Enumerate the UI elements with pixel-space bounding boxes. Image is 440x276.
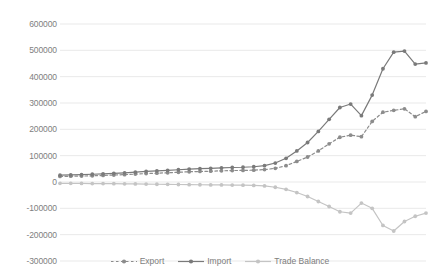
data-point [101, 172, 105, 176]
data-point [123, 171, 127, 175]
data-point [90, 172, 94, 176]
data-point [327, 117, 331, 121]
data-point [424, 211, 428, 215]
legend-item-import[interactable]: Import [178, 256, 231, 266]
y-axis-tick-labels: 6000005000004000003000002000001000000-10… [0, 0, 57, 276]
data-point [112, 171, 116, 175]
data-point [187, 183, 191, 187]
y-axis-tick-label: 300000 [5, 98, 57, 108]
data-point [338, 106, 342, 110]
data-point [413, 214, 417, 218]
data-point [241, 165, 245, 169]
data-point [392, 108, 396, 112]
legend-swatch-import [178, 257, 204, 266]
legend-swatch-export [111, 257, 137, 266]
data-point [392, 229, 396, 233]
data-point [273, 166, 277, 170]
y-axis-tick-label: 0 [5, 177, 57, 187]
data-point [273, 161, 277, 165]
data-point [133, 170, 137, 174]
data-point [306, 195, 310, 199]
data-point [177, 168, 181, 172]
data-point [187, 167, 191, 171]
y-axis-tick-label: 200000 [5, 124, 57, 134]
data-point [155, 169, 159, 173]
series-import [58, 49, 428, 177]
data-point [133, 182, 137, 186]
data-point [316, 130, 320, 134]
data-point [327, 205, 331, 209]
data-point [403, 220, 407, 224]
y-axis-tick-label: 600000 [5, 19, 57, 29]
series-trade-balance [58, 181, 428, 232]
data-point [58, 181, 62, 185]
data-point [284, 164, 288, 168]
data-point [230, 166, 234, 170]
y-axis-tick-label: 500000 [5, 45, 57, 55]
data-point [349, 133, 353, 137]
data-point [360, 135, 364, 139]
data-point [370, 206, 374, 210]
data-point [284, 156, 288, 160]
data-point [295, 149, 299, 153]
data-point [263, 164, 267, 168]
data-point [403, 49, 407, 53]
data-point [101, 182, 105, 186]
data-point [112, 182, 116, 186]
data-point [370, 93, 374, 97]
legend-item-export[interactable]: Export [111, 256, 165, 266]
data-point [166, 182, 170, 186]
data-point [144, 170, 148, 174]
line-chart: 6000005000004000003000002000001000000-10… [0, 0, 440, 276]
data-point [338, 135, 342, 139]
data-point [360, 201, 364, 205]
legend-label-export: Export [140, 256, 165, 266]
data-point [403, 107, 407, 111]
data-point [295, 191, 299, 195]
data-point [424, 110, 428, 114]
data-point [230, 183, 234, 187]
y-axis-tick-label: -200000 [5, 230, 57, 240]
data-point [413, 62, 417, 66]
legend-item-trade-balance[interactable]: Trade Balance [245, 256, 329, 266]
data-point [69, 181, 73, 185]
data-point [349, 211, 353, 215]
data-point [316, 200, 320, 204]
data-point [209, 183, 213, 187]
data-point [69, 173, 73, 177]
data-point [58, 173, 62, 177]
data-point [220, 183, 224, 187]
data-point [338, 210, 342, 214]
legend-swatch-trade-balance [245, 257, 271, 266]
data-point [306, 141, 310, 145]
data-point [381, 110, 385, 114]
data-point [241, 183, 245, 187]
data-point [413, 115, 417, 119]
y-axis-tick-label: -100000 [5, 203, 57, 213]
gridlines [60, 24, 426, 261]
data-point [424, 61, 428, 65]
data-point [263, 184, 267, 188]
data-point [295, 160, 299, 164]
data-point [349, 102, 353, 106]
chart-plot-area [0, 0, 440, 276]
data-point [381, 224, 385, 228]
series-line [60, 51, 426, 175]
data-point [155, 182, 159, 186]
data-point [360, 114, 364, 118]
data-point [198, 183, 202, 187]
data-point [252, 168, 256, 172]
data-point [273, 185, 277, 189]
data-point [252, 165, 256, 169]
data-point [252, 184, 256, 188]
data-point [306, 155, 310, 159]
data-point [327, 142, 331, 146]
data-point [209, 166, 213, 170]
data-point [123, 182, 127, 186]
data-point [166, 169, 170, 173]
chart-legend: Export Import Trade Balance [0, 252, 440, 270]
data-point [392, 50, 396, 54]
data-point [144, 182, 148, 186]
data-point [220, 166, 224, 170]
data-point [90, 182, 94, 186]
